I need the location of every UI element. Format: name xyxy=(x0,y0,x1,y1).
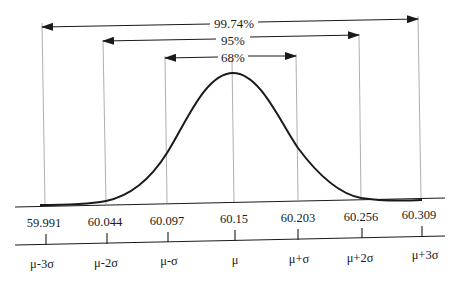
sigma-label-2: μ-σ xyxy=(160,254,178,268)
value-label-2: 60.097 xyxy=(150,214,184,228)
range-label-68: 68% xyxy=(221,50,245,65)
guide-line-mu-plus-2sigma xyxy=(359,34,361,199)
bell-curve xyxy=(40,73,422,205)
arrow-95-left xyxy=(103,39,216,41)
arrow-9974-left xyxy=(42,24,210,27)
guide-line-mu-minus-2sigma xyxy=(103,40,106,204)
sigma-label-0: μ-3σ xyxy=(30,257,54,271)
sigma-label-4: μ+σ xyxy=(289,252,310,266)
guide-line-mu-plus-3sigma xyxy=(418,16,421,198)
sigma-label-3: μ xyxy=(232,253,239,267)
range-label-95: 95% xyxy=(221,33,245,48)
sigma-axis-line xyxy=(15,236,445,245)
value-axis-line xyxy=(15,198,445,207)
value-label-6: 60.309 xyxy=(402,208,436,222)
arrow-68-left xyxy=(165,57,218,58)
sigma-labels: μ-3σ μ-2σ μ-σ μ μ+σ μ+2σ μ+3σ xyxy=(30,248,439,271)
guide-line-mu-minus-3sigma xyxy=(42,23,45,205)
sigma-label-6: μ+3σ xyxy=(412,248,439,262)
value-label-4: 60.203 xyxy=(281,211,315,225)
value-label-3: 60.15 xyxy=(220,212,248,226)
value-labels: 59.991 60.044 60.097 60.15 60.203 60.256… xyxy=(27,208,436,230)
normal-distribution-diagram: 99.74% 95% 68% 59.991 60.044 60.097 60.1… xyxy=(0,0,457,285)
guide-line-mu xyxy=(232,60,234,202)
arrow-95-right xyxy=(250,35,359,37)
value-label-5: 60.256 xyxy=(344,210,378,224)
sigma-label-5: μ+2σ xyxy=(347,251,374,265)
sigma-label-1: μ-2σ xyxy=(94,256,118,270)
arrow-9974-right xyxy=(258,19,418,22)
value-label-1: 60.044 xyxy=(88,215,123,229)
guide-line-mu-minus-sigma xyxy=(165,56,167,203)
value-label-0: 59.991 xyxy=(27,216,61,230)
range-label-9974: 99.74% xyxy=(214,16,254,31)
guide-line-mu-plus-sigma xyxy=(296,54,298,200)
